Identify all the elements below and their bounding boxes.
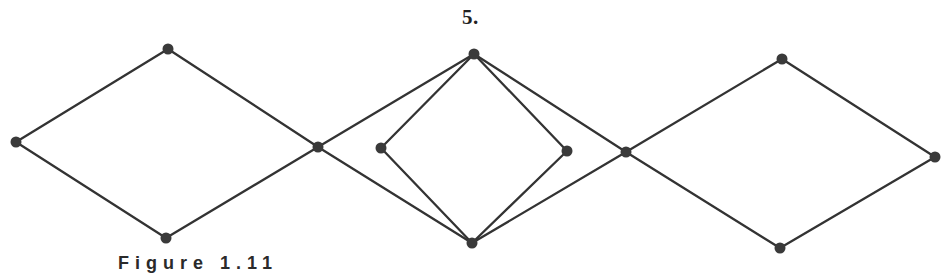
nodes-group [11,44,941,254]
edge-L3-C1 [166,147,318,238]
edge-R2-R3 [780,157,935,248]
node-left-diamond-top [163,44,174,55]
edge-R1-R3 [782,59,935,157]
node-junction-right [621,147,632,158]
node-right-diamond-top [777,54,788,65]
edge-L2-C1 [168,49,318,147]
edge-M3-M4 [472,151,567,243]
edge-C2-R1 [626,59,782,152]
node-middle-bottom [467,238,478,249]
edge-M1-M3 [474,54,567,151]
edges-group [16,49,935,248]
edge-L1-L2 [16,49,168,142]
node-right-diamond-bottom [775,243,786,254]
node-left-diamond-bottom [161,233,172,244]
node-inner-right [562,146,573,157]
node-middle-top [469,49,480,60]
node-inner-left [376,143,387,154]
node-left-diamond-left [11,137,22,148]
figure-caption: Figure 1.11 [118,253,278,274]
node-junction-left [313,142,324,153]
edge-C2-R2 [626,152,780,248]
edge-M4-C2 [472,152,626,243]
edge-L1-L3 [16,142,166,238]
edge-M1-C2 [474,54,626,152]
node-right-diamond-right [930,152,941,163]
